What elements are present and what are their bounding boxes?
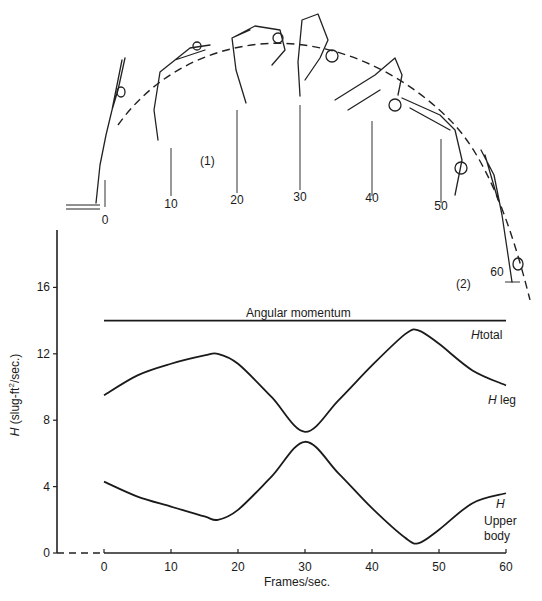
- legend-h-upper-symbol-wrap: H: [496, 498, 505, 510]
- y-axis-label-tail: /sec.): [8, 354, 22, 383]
- y-tick-label: 0: [43, 547, 50, 559]
- x-tick-label: 20: [231, 561, 244, 573]
- x-tick-label: 50: [432, 561, 445, 573]
- figure: 0 10 20 30 40 50 60 (1) (2) 010203040506…: [0, 0, 542, 601]
- chart-series: [104, 321, 506, 544]
- y-axis-label: H (slug-ft2/sec.): [7, 354, 22, 436]
- legend-h-upper-line1: Upper: [484, 515, 517, 527]
- y-axis-label-unit: (slug-ft: [8, 388, 22, 428]
- x-tick-label: 10: [164, 561, 177, 573]
- chart-axes: [53, 230, 506, 553]
- legend-h-upper-symbol: H: [496, 497, 505, 511]
- y-tick-label: 4: [43, 481, 50, 493]
- y-tick-label: 8: [43, 414, 50, 426]
- legend-h-total-symbol: H: [471, 328, 480, 342]
- y-axis-label-symbol: H: [8, 428, 22, 437]
- series-h-leg-line: [104, 329, 506, 431]
- legend-h-leg-symbol: H: [488, 393, 497, 407]
- x-tick-label: 40: [365, 561, 378, 573]
- legend-h-leg: H leg: [488, 394, 516, 406]
- x-tick-label: 30: [298, 561, 311, 573]
- angular-momentum-chart: [0, 0, 542, 601]
- legend-h-leg-text: leg: [500, 393, 516, 407]
- y-tick-label: 16: [37, 281, 50, 293]
- legend-h-total-text: total: [480, 328, 503, 342]
- chart-title: Angular momentum: [246, 307, 351, 319]
- legend-h-total: Htotal: [471, 329, 502, 341]
- x-tick-label: 60: [499, 561, 512, 573]
- x-axis-label: Frames/sec.: [264, 576, 330, 588]
- legend-h-upper-line2: body: [484, 530, 510, 542]
- x-tick-label: 0: [101, 561, 108, 573]
- y-tick-label: 12: [37, 348, 50, 360]
- y-axis-label-sup: 2: [7, 383, 16, 387]
- series-h-upper-body-line: [104, 442, 506, 544]
